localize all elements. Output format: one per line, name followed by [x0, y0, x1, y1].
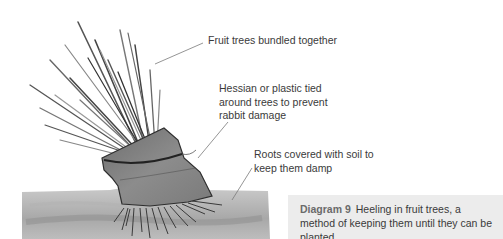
pointer-line-trees	[155, 43, 203, 64]
label-hessian: Hessian or plastic tied around trees to …	[219, 82, 328, 123]
label-line: keep them damp	[254, 162, 374, 176]
label-line: Fruit trees bundled together	[208, 34, 337, 48]
caption-title: Diagram 9	[300, 203, 351, 215]
pointer-line-hessian	[198, 122, 228, 158]
label-line: Roots covered with soil to	[254, 148, 374, 162]
figure-caption: Diagram 9Heeling in fruit trees, a metho…	[288, 195, 503, 239]
label-line: rabbit damage	[219, 109, 328, 123]
label-roots: Roots covered with soil to keep them dam…	[254, 148, 374, 175]
tree-branches	[30, 22, 160, 158]
label-line: around trees to prevent	[219, 96, 328, 110]
label-fruit-trees: Fruit trees bundled together	[208, 34, 337, 48]
label-line: Hessian or plastic tied	[219, 82, 328, 96]
